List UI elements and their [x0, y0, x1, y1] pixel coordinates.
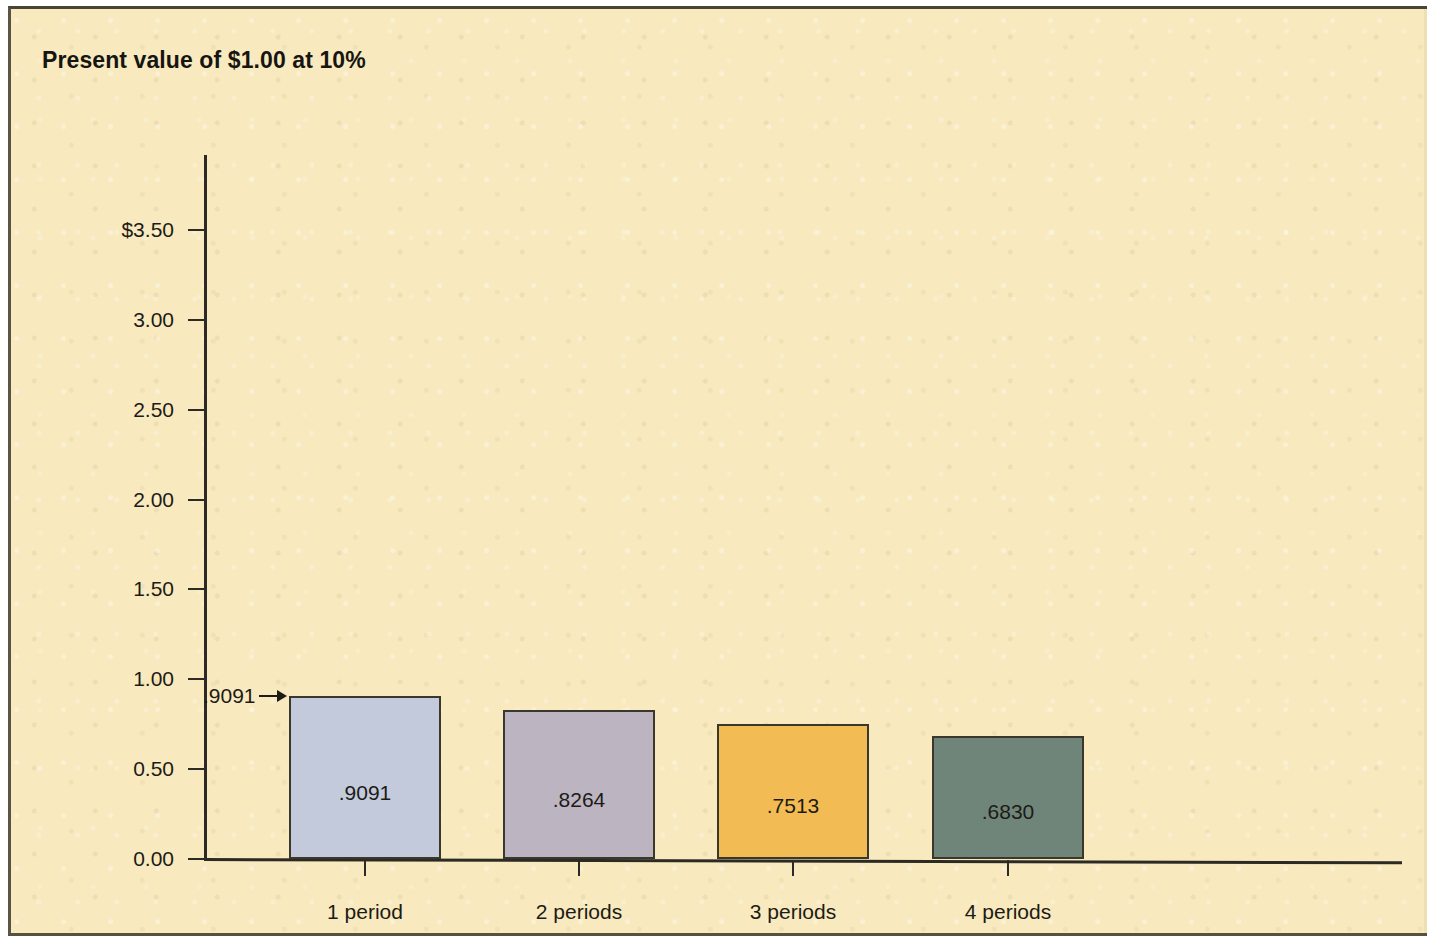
- y-axis-label: $3.50: [66, 218, 174, 242]
- y-axis-label: 3.00: [66, 308, 174, 332]
- y-axis-tick: [188, 588, 206, 590]
- y-axis-label: 2.50: [66, 398, 174, 422]
- x-axis-label: 2 periods: [536, 900, 622, 924]
- x-axis-tick: [364, 860, 366, 876]
- plot-area: 0.000.501.001.502.002.503.00$3.50 .90911…: [11, 9, 1430, 939]
- y-axis-label: 0.00: [66, 847, 174, 871]
- y-axis-tick: [188, 229, 206, 231]
- x-axis-label: 3 periods: [750, 900, 836, 924]
- y-axis-tick: [188, 768, 206, 770]
- y-axis-label: 1.00: [66, 667, 174, 691]
- figure-container: Present value of $1.00 at 10% 0.000.501.…: [0, 0, 1435, 950]
- bar: [717, 724, 869, 859]
- y-axis-tick: [188, 858, 206, 860]
- x-axis-tick: [1007, 860, 1009, 876]
- value-callout: .9091: [203, 683, 287, 709]
- callout-label: .9091: [203, 685, 256, 706]
- bar: [932, 736, 1084, 859]
- y-axis-tick: [188, 319, 206, 321]
- bar-value-label: .6830: [932, 800, 1084, 824]
- x-axis-tick: [578, 860, 580, 876]
- y-axis-label: 2.00: [66, 488, 174, 512]
- chart-panel: Present value of $1.00 at 10% 0.000.501.…: [8, 6, 1427, 936]
- bar-value-label: .7513: [717, 794, 869, 818]
- x-axis-tick: [792, 860, 794, 876]
- y-axis-tick: [188, 678, 206, 680]
- bar: [503, 710, 655, 859]
- bar-value-label: .8264: [503, 788, 655, 812]
- y-axis-tick: [188, 499, 206, 501]
- bar-value-label: .9091: [289, 781, 441, 805]
- y-axis-tick: [188, 409, 206, 411]
- y-axis-line: [204, 155, 207, 860]
- arrow-right-icon: [259, 690, 287, 702]
- y-axis-label: 0.50: [66, 757, 174, 781]
- x-axis-label: 1 period: [327, 900, 403, 924]
- y-axis-label: 1.50: [66, 577, 174, 601]
- bar: [289, 696, 441, 859]
- x-axis-label: 4 periods: [965, 900, 1051, 924]
